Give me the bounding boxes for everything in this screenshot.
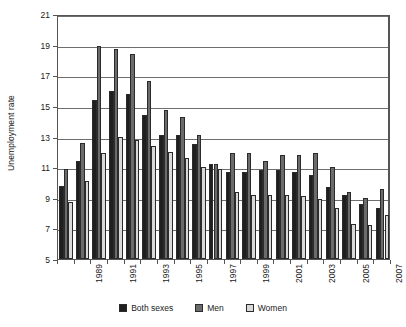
x-axis-tick-label: 1991: [126, 264, 140, 298]
bar: [351, 224, 355, 259]
bar: [151, 146, 155, 259]
legend-swatch-icon: [246, 304, 254, 312]
bar-group: [308, 16, 325, 259]
unemployment-rate-bar-chart: Unemployment rate 579111315171921 198919…: [0, 0, 406, 327]
y-axis-title-label: Unemployment rate: [6, 95, 16, 171]
legend-item: Women: [246, 304, 287, 313]
bar: [285, 195, 289, 259]
bar: [251, 195, 255, 259]
bar: [101, 153, 105, 259]
bar-group: [358, 16, 375, 259]
bar-group: [125, 16, 142, 259]
y-axis-tick-label: 13: [22, 134, 50, 143]
bar: [335, 208, 339, 259]
x-axis-tick-label: 1999: [259, 264, 273, 298]
x-axis-tick-label: 2001: [292, 264, 306, 298]
bar-group: [341, 16, 358, 259]
legend-swatch-icon: [119, 304, 127, 312]
legend-swatch-icon: [195, 304, 203, 312]
bar-group: [75, 16, 92, 259]
bar-group: [141, 16, 158, 259]
x-axis-tick-label: 2005: [359, 264, 373, 298]
bar-group: [108, 16, 125, 259]
bar-group: [175, 16, 192, 259]
legend-item: Both sexes: [119, 304, 173, 313]
legend-label: Women: [258, 304, 287, 313]
y-axis-tick-label: 17: [22, 72, 50, 81]
x-axis-tick-label: 2007: [392, 264, 406, 298]
bar-group: [191, 16, 208, 259]
y-axis-title: Unemployment rate: [0, 0, 22, 265]
plot-area: [57, 15, 390, 260]
bar-group: [91, 16, 108, 259]
y-axis-tick-label: 21: [22, 11, 50, 20]
bar: [118, 137, 122, 260]
legend-label: Men: [207, 304, 224, 313]
x-axis-tick-label: 1997: [226, 264, 240, 298]
y-axis-tick-label: 19: [22, 42, 50, 51]
bar: [368, 225, 372, 259]
y-axis-ticks: 579111315171921: [22, 0, 55, 327]
bar-group: [291, 16, 308, 259]
x-axis-tick-mark: [390, 260, 391, 264]
bar-group: [324, 16, 341, 259]
bar-group: [158, 16, 175, 259]
x-axis-tick-label: 1995: [192, 264, 206, 298]
bar: [318, 199, 322, 259]
y-axis-tick-label: 5: [22, 256, 50, 265]
x-axis-labels: 1989199119931995199719992001200320052007: [57, 264, 390, 298]
bar: [68, 202, 72, 259]
legend-item: Men: [195, 304, 224, 313]
bar-group: [374, 16, 391, 259]
bar: [185, 158, 189, 259]
bar: [135, 140, 139, 259]
y-axis-tick-label: 9: [22, 195, 50, 204]
bar: [301, 196, 305, 259]
bar: [235, 192, 239, 259]
bar: [168, 152, 172, 259]
bar: [218, 169, 222, 259]
bar-group: [225, 16, 242, 259]
x-axis-tick-label: 1989: [92, 264, 106, 298]
bar-group: [58, 16, 75, 259]
bar-group: [241, 16, 258, 259]
y-axis-tick-label: 11: [22, 164, 50, 173]
bar-group: [258, 16, 275, 259]
bar-group: [208, 16, 225, 259]
x-axis-tick-label: 2003: [325, 264, 339, 298]
bar: [268, 195, 272, 259]
y-axis-tick-label: 7: [22, 225, 50, 234]
legend-label: Both sexes: [131, 304, 173, 313]
bar: [85, 181, 89, 259]
bar: [201, 167, 205, 259]
chart-legend: Both sexesMenWomen: [0, 300, 406, 316]
bar: [385, 215, 389, 259]
x-axis-tick-label: 1993: [159, 264, 173, 298]
bars-layer: [58, 16, 388, 259]
bar-group: [274, 16, 291, 259]
y-axis-tick-label: 15: [22, 103, 50, 112]
